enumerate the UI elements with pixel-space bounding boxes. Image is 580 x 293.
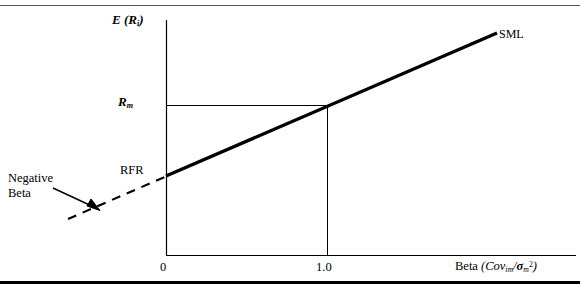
y-axis-label-close: ) xyxy=(139,12,143,27)
sml-label-leader-line xyxy=(470,34,496,45)
x-axis-label-prefix: Beta xyxy=(455,259,478,273)
x-axis-label: Beta (Covim/σm2) xyxy=(455,259,537,274)
x-tick-label-0: 0 xyxy=(160,260,166,274)
plot-canvas xyxy=(0,0,580,293)
sml-figure: E (Ri) Rm RFR SML Negative Beta 0 1.0 Be… xyxy=(0,0,580,293)
y-axis-label-var: R xyxy=(128,12,137,27)
x-axis-label-cov: Cov xyxy=(485,259,505,273)
y-tick-label-rm: Rm xyxy=(118,95,133,110)
negative-beta-annotation: Negative Beta xyxy=(8,171,53,202)
negative-beta-line-2: Beta xyxy=(8,186,53,201)
security-market-line xyxy=(166,33,497,176)
rm-var: R xyxy=(118,94,127,109)
y-intercept-label-rfr: RFR xyxy=(120,163,144,177)
negative-beta-line-1: Negative xyxy=(8,171,53,186)
x-axis-label-close: ) xyxy=(533,259,537,273)
y-axis-label: E (Ri) xyxy=(112,13,144,28)
y-axis-label-prefix: E xyxy=(112,12,121,27)
x-tick-label-1: 1.0 xyxy=(316,260,332,274)
sml-label: SML xyxy=(499,28,524,41)
negative-beta-arrow xyxy=(53,188,100,211)
negative-beta-dashed-line xyxy=(68,176,167,219)
x-axis-label-cov-subscript: im xyxy=(505,265,513,274)
rm-subscript: m xyxy=(127,101,133,110)
